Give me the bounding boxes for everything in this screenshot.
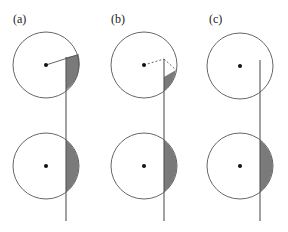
panel-label-b: (b): [111, 12, 125, 26]
shaded-segment-b-top: [164, 70, 176, 91]
dashed-radius-b-to-rim: [164, 59, 176, 70]
center-dot-a-top: [44, 63, 48, 67]
panel-c: [207, 33, 273, 221]
center-dot-b-top: [142, 63, 146, 67]
shaded-segment-b-bottom: [164, 140, 177, 192]
panel-label-c: (c): [209, 12, 222, 26]
center-dot-c-top: [238, 64, 242, 68]
center-dot-a-bottom: [44, 164, 48, 168]
dashed-radius-b: [144, 59, 164, 65]
shaded-segment-a-bottom: [66, 140, 79, 192]
shaded-segment-c-bottom: [260, 140, 273, 192]
center-dot-b-bottom: [142, 164, 146, 168]
panel-a: [13, 32, 80, 221]
panel-b: [111, 32, 177, 221]
center-dot-c-bottom: [238, 164, 242, 168]
panel-label-a: (a): [13, 12, 26, 26]
three-panel-diagram: (a) (b) (c): [0, 0, 288, 232]
